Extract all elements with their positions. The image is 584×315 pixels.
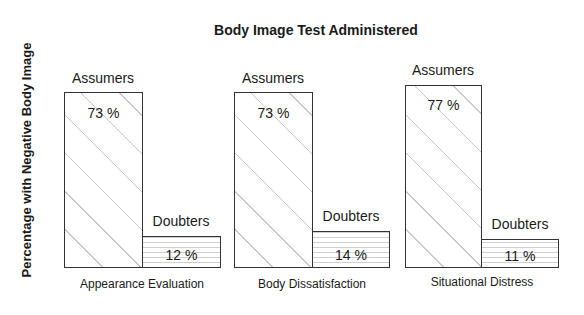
series-label-assumers: Assumers bbox=[58, 70, 148, 86]
bar-doubters-situational-distress: 11 % bbox=[481, 239, 559, 268]
bar-doubters-appearance-evaluation: 12 % bbox=[142, 236, 221, 268]
bar-value: 12 % bbox=[143, 247, 220, 263]
bar-assumers-body-dissatisfaction: 73 % bbox=[234, 92, 313, 268]
category-label: Body Dissatisfaction bbox=[227, 277, 397, 291]
bar-value: 14 % bbox=[313, 247, 389, 263]
series-label-doubters: Doubters bbox=[475, 216, 565, 232]
bar-doubters-body-dissatisfaction: 14 % bbox=[312, 231, 390, 268]
bar-value: 73 % bbox=[65, 105, 142, 121]
bar-value: 77 % bbox=[406, 97, 481, 113]
y-axis-label: Percentage with Negative Body Image bbox=[19, 43, 34, 278]
bar-value: 11 % bbox=[482, 248, 558, 264]
bar-value: 73 % bbox=[235, 105, 312, 121]
chart-title: Body Image Test Administered bbox=[0, 22, 584, 38]
bar-assumers-appearance-evaluation: 73 % bbox=[64, 92, 143, 268]
series-label-assumers: Assumers bbox=[398, 62, 488, 78]
series-label-doubters: Doubters bbox=[136, 213, 226, 229]
series-label-assumers: Assumers bbox=[228, 70, 318, 86]
bar-assumers-situational-distress: 77 % bbox=[405, 85, 482, 268]
series-label-doubters: Doubters bbox=[306, 208, 396, 224]
category-label: Appearance Evaluation bbox=[57, 277, 227, 291]
category-label: Situational Distress bbox=[397, 275, 567, 289]
chart-title-text: Body Image Test Administered bbox=[214, 22, 418, 38]
